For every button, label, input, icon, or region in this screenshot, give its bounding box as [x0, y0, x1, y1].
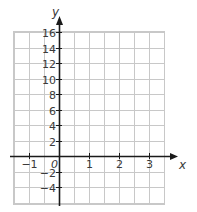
origin-label: 0 — [51, 158, 58, 171]
x-tick-label: 1 — [86, 158, 93, 171]
y-tick-label: 6 — [49, 105, 56, 118]
x-tick-label: −1 — [21, 158, 37, 171]
x-tick-label: 3 — [146, 158, 153, 171]
y-axis-label: y — [51, 5, 60, 19]
y-tick-label: 14 — [42, 43, 56, 56]
y-tick-label: 2 — [49, 136, 56, 149]
coordinate-grid: −1123161412108642−2−4 x y 0 — [0, 0, 197, 212]
x-axis-arrow-icon — [170, 153, 178, 160]
y-tick-label: 10 — [42, 74, 56, 87]
y-tick-label: 12 — [42, 58, 56, 71]
x-tick-label: 2 — [116, 158, 123, 171]
x-axis-label: x — [178, 158, 187, 172]
grid-lines — [13, 31, 165, 205]
y-tick-label: −4 — [40, 182, 56, 195]
y-tick-label: 16 — [42, 27, 56, 40]
y-tick-label: 8 — [49, 89, 56, 102]
y-tick-label: 4 — [49, 120, 56, 133]
